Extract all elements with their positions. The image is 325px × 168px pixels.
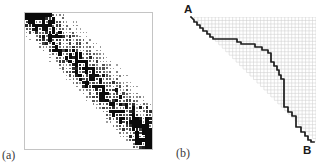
point-b-label: B (303, 145, 311, 156)
alignment-path-plot (162, 0, 325, 168)
panel-b: A B (b) (0, 0, 325, 168)
figure-canvas: (a) A B (b) (0, 0, 325, 168)
point-a-label: A (184, 4, 192, 15)
panel-b-label: (b) (176, 147, 190, 159)
